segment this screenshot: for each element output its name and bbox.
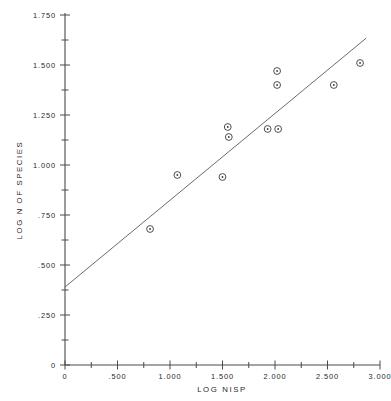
regression-line-path — [65, 38, 366, 287]
marker-center-dot — [227, 126, 229, 128]
x-tick-label: 1.000 — [159, 372, 182, 381]
data-point-marker — [219, 174, 226, 181]
y-tick-label: .750 — [38, 211, 56, 220]
marker-center-dot — [276, 84, 278, 86]
marker-center-dot — [277, 128, 279, 130]
y-tick-label: .500 — [38, 261, 56, 270]
scatter-plot-figure: 0.250.500.7501.0001.2501.5001.750 0.5001… — [0, 0, 391, 401]
data-point-marker — [147, 226, 154, 233]
x-tick-label: 0 — [62, 372, 67, 381]
x-tick-label: 1.500 — [211, 372, 234, 381]
plot-canvas: 0.250.500.7501.0001.2501.5001.750 0.5001… — [0, 0, 391, 401]
x-tick-label: .500 — [109, 372, 127, 381]
y-tick-label: 0 — [51, 361, 56, 370]
marker-center-dot — [267, 128, 269, 130]
regression-line — [65, 38, 366, 287]
x-axis-title: LOG NISP — [197, 385, 247, 394]
y-tick-label: 1.750 — [33, 11, 56, 20]
marker-center-dot — [222, 176, 224, 178]
data-point-marker — [174, 172, 181, 179]
data-point-marker — [275, 126, 282, 133]
data-point-marker — [224, 124, 231, 131]
marker-center-dot — [228, 136, 230, 138]
y-tick-label: .250 — [38, 311, 56, 320]
x-axis-tick-labels: 0.5001.0001.5002.0002.5003.000 — [62, 372, 391, 381]
y-tick-label: 1.250 — [33, 111, 56, 120]
data-point-marker — [357, 60, 364, 67]
marker-center-dot — [333, 84, 335, 86]
y-tick-label: 1.000 — [33, 161, 56, 170]
y-axis-tick-labels: 0.250.500.7501.0001.2501.5001.750 — [33, 11, 56, 370]
y-tick-label: 1.500 — [33, 61, 56, 70]
marker-center-dot — [176, 174, 178, 176]
data-point-marker — [264, 126, 271, 133]
data-point-marker — [330, 82, 337, 89]
data-point-marker — [274, 68, 281, 75]
marker-center-dot — [359, 62, 361, 64]
x-tick-label: 3.000 — [369, 372, 391, 381]
x-tick-label: 2.000 — [264, 372, 287, 381]
x-axis-group: 0.5001.0001.5002.0002.5003.000 — [62, 361, 391, 382]
marker-center-dot — [276, 70, 278, 72]
marker-center-dot — [149, 228, 151, 230]
data-point-marker — [274, 82, 281, 89]
x-tick-label: 2.500 — [316, 372, 339, 381]
data-points — [147, 60, 364, 233]
data-point-marker — [225, 134, 232, 141]
y-axis-group: 0.250.500.7501.0001.2501.5001.750 — [33, 11, 70, 370]
y-axis-title: LOG N OF SPECIES — [15, 141, 24, 240]
